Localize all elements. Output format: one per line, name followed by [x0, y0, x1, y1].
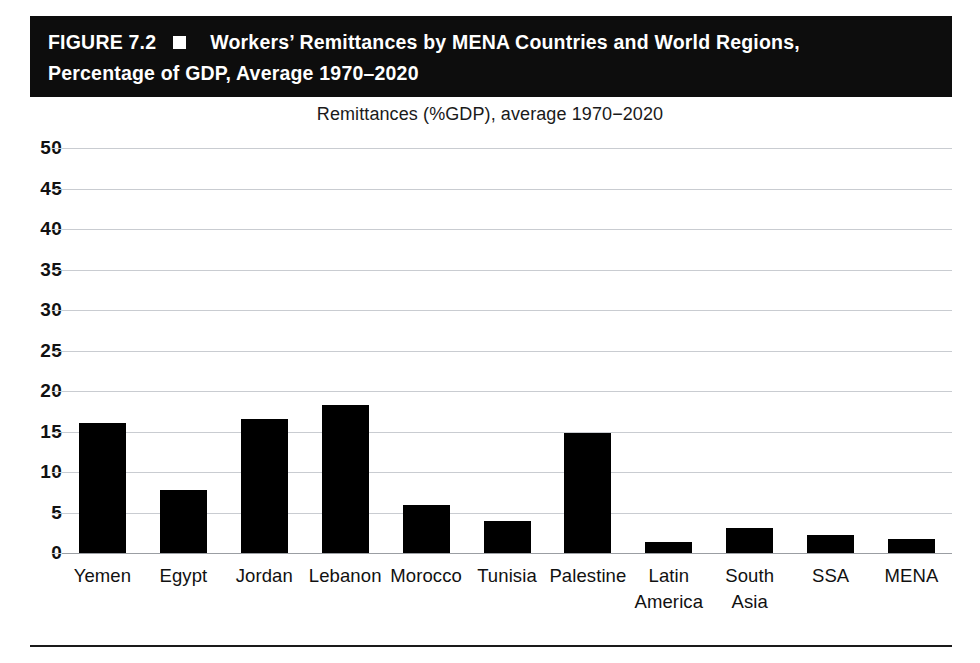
y-axis-tick-mark: [52, 432, 61, 433]
x-axis-tick-label: SouthAsia: [706, 563, 793, 615]
bar: [484, 521, 531, 553]
x-axis-labels: YemenEgyptJordanLebanonMoroccoTunisiaPal…: [62, 563, 952, 633]
x-axis-tick-label-line: Jordan: [221, 563, 308, 589]
bar: [241, 419, 288, 553]
y-axis-tick-mark: [52, 351, 61, 352]
x-axis-tick-label-line: MENA: [868, 563, 955, 589]
y-axis-tick-mark: [52, 270, 61, 271]
bar: [564, 433, 611, 553]
x-axis-tick-label: LatinAmerica: [625, 563, 712, 615]
x-axis-tick-label: Yemen: [59, 563, 146, 589]
x-axis-tick-label: Palestine: [544, 563, 631, 589]
bar: [403, 505, 450, 553]
x-axis-tick-label-line: America: [625, 589, 712, 615]
bar: [726, 528, 773, 553]
x-axis-tick-label: Jordan: [221, 563, 308, 589]
bar: [322, 405, 369, 553]
x-axis-tick-label: SSA: [787, 563, 874, 589]
x-axis-tick-label: Tunisia: [464, 563, 551, 589]
bar: [160, 490, 207, 553]
x-axis-tick-label: Morocco: [383, 563, 470, 589]
x-axis-tick-label: MENA: [868, 563, 955, 589]
y-axis-tick-mark: [52, 553, 61, 554]
y-axis-tick-mark: [52, 148, 61, 149]
x-axis-tick-label-line: Yemen: [59, 563, 146, 589]
y-axis-tick-mark: [52, 229, 61, 230]
x-axis-tick-label-line: Palestine: [544, 563, 631, 589]
x-axis-tick-label-line: SSA: [787, 563, 874, 589]
y-axis-tick-mark: [52, 513, 61, 514]
chart-plot: 05101520253035404550 YemenEgyptJordanLeb…: [0, 0, 980, 663]
bar: [645, 542, 692, 553]
x-axis-tick-label-line: South: [706, 563, 793, 589]
x-axis-tick-label-line: Asia: [706, 589, 793, 615]
x-axis-tick-label-line: Latin: [625, 563, 712, 589]
x-axis-tick-label: Lebanon: [302, 563, 389, 589]
y-axis-tick-mark: [52, 189, 61, 190]
x-axis-tick-label: Egypt: [140, 563, 227, 589]
bar: [807, 535, 854, 553]
y-axis-tick-mark: [52, 472, 61, 473]
bars-layer: [62, 148, 952, 553]
bar: [888, 539, 935, 553]
x-axis-tick-label-line: Morocco: [383, 563, 470, 589]
y-axis-tick-mark: [52, 310, 61, 311]
y-axis: 05101520253035404550: [0, 148, 62, 553]
x-axis-tick-label-line: Egypt: [140, 563, 227, 589]
x-axis-tick-label-line: Lebanon: [302, 563, 389, 589]
y-axis-tick-mark: [52, 391, 61, 392]
x-axis-tick-label-line: Tunisia: [464, 563, 551, 589]
bottom-divider: [30, 645, 952, 647]
bar: [79, 423, 126, 553]
